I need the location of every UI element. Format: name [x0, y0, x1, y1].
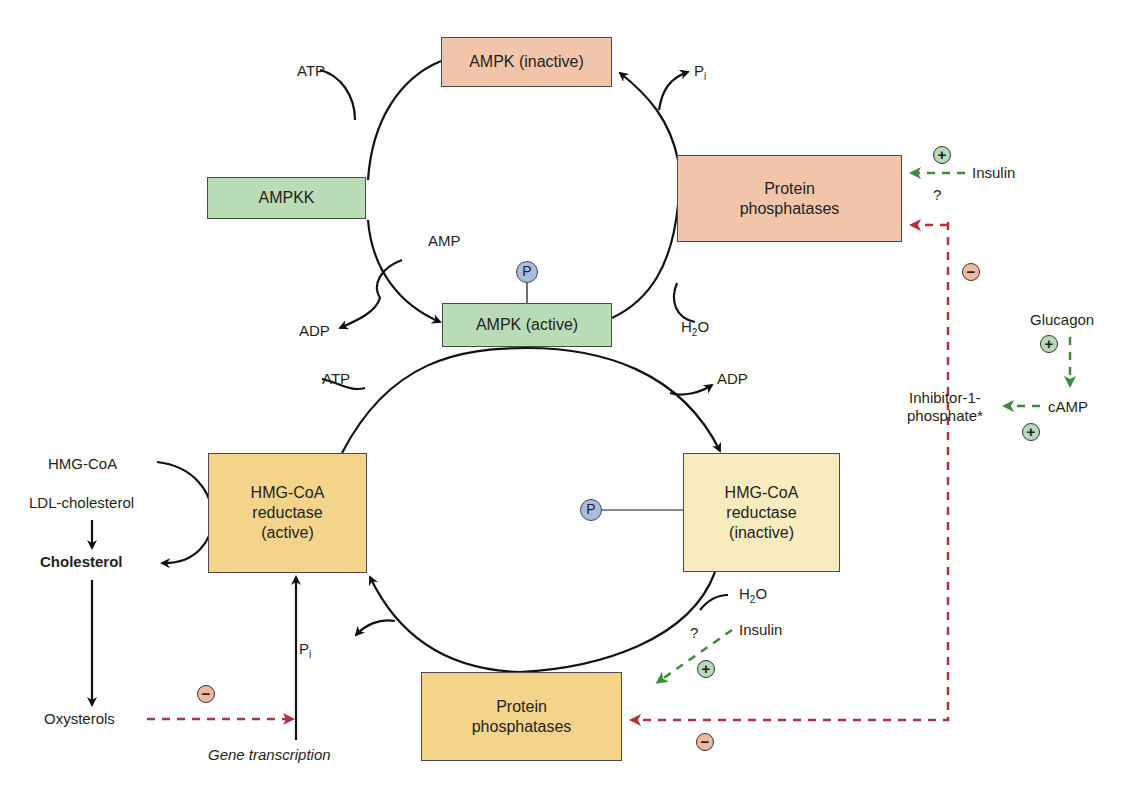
- protein-phosphatases-bottom-label: Protein phosphatases: [472, 697, 572, 737]
- protein-phosphatases-top-label: Protein phosphatases: [738, 179, 841, 219]
- ampk-active-box: AMPK (active): [442, 303, 612, 347]
- pi-label: Pi: [694, 62, 706, 86]
- h2o-label: H2O: [681, 318, 709, 342]
- inhibition-icon: −: [696, 733, 714, 751]
- h-text: H: [681, 318, 692, 335]
- glucagon-label: Glucagon: [1030, 311, 1094, 329]
- cholesterol-label: Cholesterol: [40, 553, 123, 571]
- pi-label: Pi: [299, 640, 311, 664]
- question-mark: ?: [690, 624, 698, 642]
- inhibition-icon: −: [197, 685, 215, 703]
- pi-subscript: i: [309, 649, 311, 660]
- h-text: H: [739, 585, 750, 602]
- protein-phosphatases-bottom-box: Protein phosphatases: [421, 672, 622, 761]
- stimulation-icon: +: [933, 146, 951, 164]
- hmgcoa-reductase-inactive-label: HMG-CoA reductase (inactive): [712, 483, 811, 543]
- o-text: O: [755, 585, 767, 602]
- inhibition-icon: −: [962, 263, 980, 281]
- stimulation-icon: +: [1040, 335, 1058, 353]
- adp-label: ADP: [299, 322, 330, 340]
- inhibitor-line1: Inhibitor-1-: [909, 389, 981, 406]
- ampk-inactive-box: AMPK (inactive): [441, 37, 612, 87]
- inhibitor-1-phosphate-label: Inhibitor-1-phosphate*: [907, 389, 983, 425]
- phosphate-icon: P: [580, 499, 602, 521]
- h2o-label: H2O: [739, 585, 767, 609]
- protein-phosphatases-top-box: Protein phosphatases: [677, 155, 902, 242]
- o-text: O: [697, 318, 709, 335]
- oxysterols-label: Oxysterols: [44, 710, 115, 728]
- hmgcoa-label: HMG-CoA: [48, 455, 117, 473]
- insulin-label: Insulin: [739, 621, 782, 639]
- pi-text: P: [694, 62, 704, 79]
- atp-label: ATP: [297, 62, 325, 80]
- ampkk-label: AMPKK: [258, 188, 314, 208]
- stimulation-icon: +: [1022, 423, 1040, 441]
- camp-label: cAMP: [1048, 398, 1088, 416]
- insulin-label: Insulin: [972, 164, 1015, 182]
- amp-label: AMP: [428, 232, 461, 250]
- inhibitor-line2: phosphate*: [907, 407, 983, 424]
- ldl-cholesterol-label: LDL-cholesterol: [29, 494, 134, 512]
- stimulation-icon: +: [697, 660, 715, 678]
- pi-text: P: [299, 640, 309, 657]
- hmgcoa-reductase-active-label: HMG-CoA reductase (active): [237, 483, 338, 543]
- ampkk-box: AMPKK: [207, 177, 366, 219]
- gene-transcription-label: Gene transcription: [208, 746, 331, 764]
- phosphate-icon: P: [516, 261, 538, 283]
- hmgcoa-reductase-inactive-box: HMG-CoA reductase (inactive): [683, 453, 840, 572]
- atp-label: ATP: [322, 370, 350, 388]
- ampk-inactive-label: AMPK (inactive): [469, 52, 584, 72]
- question-mark: ?: [933, 186, 941, 204]
- ampk-active-label: AMPK (active): [476, 315, 578, 335]
- hmgcoa-reductase-active-box: HMG-CoA reductase (active): [208, 453, 367, 573]
- adp-label: ADP: [717, 370, 748, 388]
- pi-subscript: i: [704, 71, 706, 82]
